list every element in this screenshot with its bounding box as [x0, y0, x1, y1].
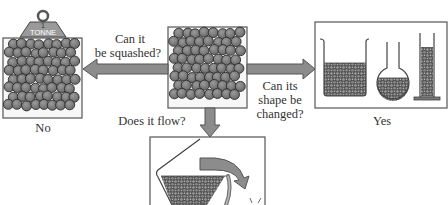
shape-question-line3: changed?	[250, 107, 310, 121]
weight-label: TONNE	[23, 28, 63, 37]
squash-question-line2: be squashed?	[88, 46, 168, 60]
diagram-canvas	[0, 0, 448, 205]
squash-answer: No	[25, 121, 61, 135]
arrow-left-icon	[83, 59, 168, 79]
flow-question: Does it flow?	[100, 114, 204, 128]
squash-question-line1: Can it	[95, 32, 165, 46]
shape-question-line2: shape be	[250, 93, 310, 107]
shape-question-line1: Can its	[250, 79, 310, 93]
arrow-right-icon	[247, 59, 315, 79]
center-particles	[169, 27, 246, 99]
left-particles	[3, 38, 80, 111]
shape-answer: Yes	[362, 114, 402, 128]
